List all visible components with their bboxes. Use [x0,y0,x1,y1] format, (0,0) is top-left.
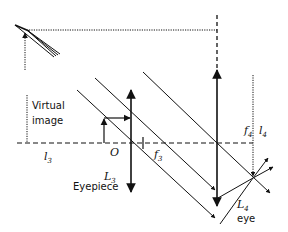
eyepiece-label: Eyepiece [73,181,118,192]
parallel-rays [77,72,270,218]
f3-label: f3 [153,148,163,163]
top-left-image [15,25,60,70]
virtual-image-label-2: image [32,115,63,126]
virtual-image-label-1: Virtual [32,100,65,111]
L4-label: L4 [236,198,249,213]
origin-label: O [110,146,119,159]
l4-label: l4 [259,124,267,139]
eye-label: eye [237,213,255,224]
object-arrow [104,118,130,143]
f4-label: f4 [243,124,253,139]
eye-geometry [218,75,273,224]
optics-diagram: Virtual image l3 O f3 L3 Eyepiece f4 l4 … [0,0,288,232]
l3-label: l3 [44,150,53,165]
